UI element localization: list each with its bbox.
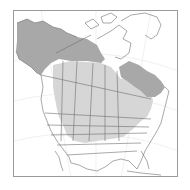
range-map <box>14 11 178 177</box>
map-frame <box>13 10 178 177</box>
